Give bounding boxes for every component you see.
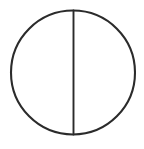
drawing-surface — [0, 0, 144, 149]
figure-canvas — [0, 0, 144, 149]
canvas-background — [0, 0, 144, 149]
